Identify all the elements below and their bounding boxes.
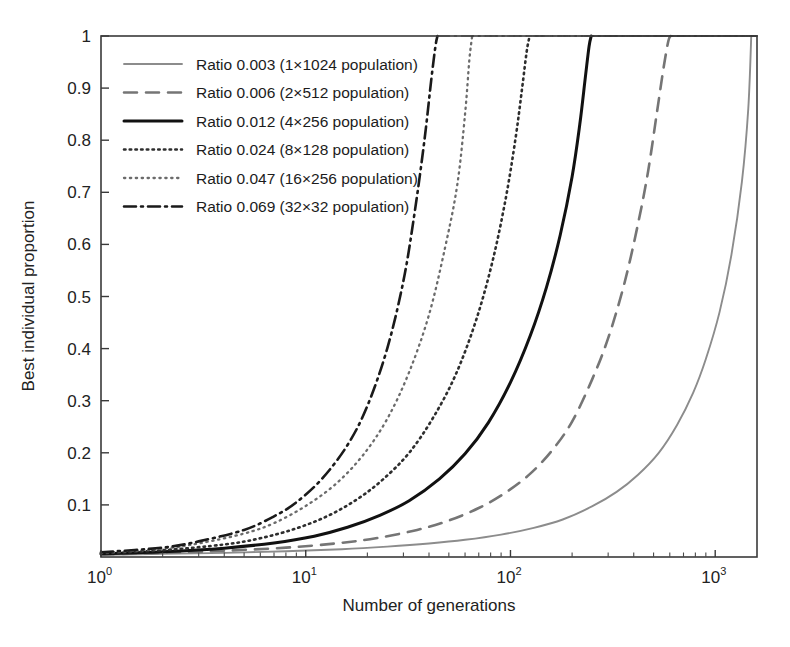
legend-label-5: Ratio 0.069 (32×32 population) [196,198,409,215]
legend-label-3: Ratio 0.024 (8×128 population) [196,141,409,158]
y-tick-label: 1 [82,27,91,46]
y-tick-label: 0.8 [67,131,91,150]
legend-label-4: Ratio 0.047 (16×256 population) [196,170,418,187]
y-tick-label: 0.9 [67,79,91,98]
y-tick-label: 0.4 [67,340,91,359]
legend-label-1: Ratio 0.006 (2×512 population) [196,84,409,101]
x-tick-exponent: 1 [311,565,317,577]
x-axis-label: Number of generations [343,596,516,615]
chart-figure: 100101102103 0.10.20.30.40.50.60.70.80.9… [0,0,790,647]
x-tick-label: 10 [292,568,311,587]
x-tick-label: 10 [87,568,106,587]
y-axis-label: Best individual proportion [19,201,38,392]
x-tick-exponent: 3 [720,565,726,577]
x-tick-label: 10 [496,568,515,587]
legend-label-2: Ratio 0.012 (4×256 population) [196,113,409,130]
legend-label-0: Ratio 0.003 (1×1024 population) [196,56,418,73]
y-tick-label: 0.3 [67,392,91,411]
y-tick-label: 0.1 [67,496,91,515]
y-tick-label: 0.6 [67,235,91,254]
y-tick-label: 0.2 [67,444,91,463]
x-tick-exponent: 2 [515,565,521,577]
x-tick-exponent: 0 [106,565,112,577]
y-tick-label: 0.5 [67,288,91,307]
chart-canvas: 100101102103 0.10.20.30.40.50.60.70.80.9… [0,0,790,647]
x-tick-label: 10 [701,568,720,587]
y-tick-label: 0.7 [67,183,91,202]
